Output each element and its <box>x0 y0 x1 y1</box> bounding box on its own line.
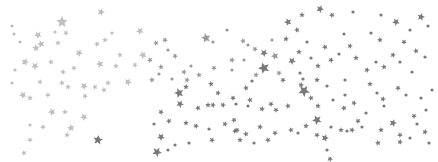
dot-shape <box>345 129 348 132</box>
dot-shape <box>270 38 273 41</box>
star-shape <box>211 66 217 71</box>
star-shape <box>31 63 39 70</box>
star-shape <box>284 18 291 26</box>
star-shape <box>397 132 403 138</box>
dot-shape <box>53 30 56 33</box>
star-shape <box>377 37 383 43</box>
dot-shape <box>325 148 328 151</box>
star-shape <box>182 69 187 75</box>
star-shape <box>166 118 172 124</box>
star-shape <box>101 87 107 93</box>
dot-shape <box>10 81 13 84</box>
star-shape <box>216 90 221 96</box>
star-shape <box>298 86 309 97</box>
star-shape <box>353 55 359 61</box>
dot-shape <box>369 31 372 34</box>
star-shape <box>21 150 26 156</box>
star-shape <box>92 84 97 90</box>
star-shape <box>132 62 138 68</box>
star-shape <box>193 123 199 129</box>
star-shape <box>59 80 65 86</box>
star-shape <box>105 80 111 86</box>
star-shape <box>276 70 282 76</box>
star-shape <box>299 12 305 18</box>
star-shape <box>392 19 400 26</box>
star-shape <box>375 140 381 146</box>
star-shape <box>265 137 271 143</box>
star-shape <box>27 95 33 101</box>
star-confetti-image <box>0 0 438 162</box>
dot-shape <box>246 104 249 107</box>
star-shape <box>355 118 361 124</box>
dot-shape <box>426 24 429 27</box>
star-shape <box>102 37 108 42</box>
star-shape <box>258 62 269 73</box>
dot-shape <box>246 43 249 46</box>
star-shape <box>117 52 123 58</box>
dot-shape <box>166 48 169 51</box>
dot-shape <box>364 111 367 114</box>
star-shape <box>243 85 249 91</box>
star-shape <box>237 137 243 143</box>
star-shape <box>183 120 189 125</box>
dot-shape <box>427 141 430 144</box>
dot-shape <box>242 58 245 61</box>
star-shape <box>285 103 291 109</box>
star-shape <box>308 95 313 101</box>
dot-shape <box>410 70 413 73</box>
dot-shape <box>173 143 176 146</box>
star-shape <box>329 12 335 18</box>
dot-shape <box>250 79 253 82</box>
star-shape <box>273 108 279 113</box>
star-shape <box>294 27 300 33</box>
star-shape <box>22 58 29 66</box>
star-shape <box>322 44 328 50</box>
dot-shape <box>301 77 304 80</box>
star-shape <box>341 105 347 111</box>
star-shape <box>75 49 83 57</box>
star-shape <box>351 100 357 106</box>
star-shape <box>322 134 329 142</box>
star-shape <box>312 116 321 125</box>
star-shape <box>38 79 43 85</box>
star-shape <box>348 43 353 49</box>
dot-shape <box>170 77 173 80</box>
star-shape <box>147 57 153 63</box>
star-shape <box>223 121 228 127</box>
star-shape <box>230 96 236 101</box>
dot-shape <box>234 102 237 105</box>
stars-layer <box>0 0 438 162</box>
dot-shape <box>337 52 340 55</box>
dot-shape <box>360 125 363 128</box>
star-shape <box>229 57 235 63</box>
star-shape <box>381 64 387 70</box>
star-shape <box>40 124 46 130</box>
star-shape <box>48 59 54 65</box>
star-shape <box>205 102 211 107</box>
dot-shape <box>342 32 345 35</box>
star-shape <box>390 52 396 58</box>
star-shape <box>317 5 324 13</box>
dot-shape <box>10 24 13 27</box>
star-shape <box>314 77 320 83</box>
dot-shape <box>166 148 169 151</box>
dot-shape <box>325 84 328 87</box>
dot-shape <box>382 104 385 107</box>
dot-shape <box>187 141 190 144</box>
star-shape <box>60 69 66 75</box>
star-shape <box>82 93 88 99</box>
star-shape <box>65 84 71 90</box>
star-shape <box>153 40 159 46</box>
star-shape <box>208 81 214 87</box>
star-shape <box>220 102 226 108</box>
star-shape <box>381 96 386 102</box>
dot-shape <box>12 32 15 35</box>
star-shape <box>314 132 320 138</box>
star-shape <box>283 36 289 42</box>
star-shape <box>253 72 259 78</box>
star-shape <box>328 57 334 63</box>
star-shape <box>209 137 215 143</box>
dot-shape <box>305 40 308 43</box>
star-shape <box>413 48 419 54</box>
star-shape <box>315 63 321 69</box>
